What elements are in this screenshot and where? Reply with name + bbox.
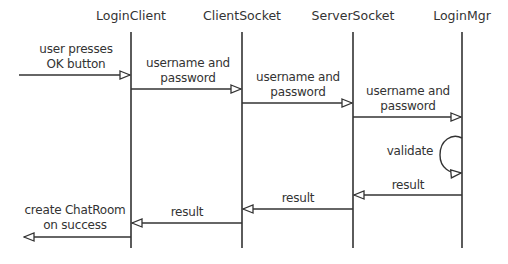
label-line: create ChatRoom (24, 203, 126, 218)
message-label-validate: validate (384, 144, 436, 159)
object-loginmgr: LoginMgr (433, 8, 491, 23)
label-line: username and (250, 70, 346, 85)
message-label-credentials-2: username and password (250, 70, 346, 100)
label-line: password (360, 99, 456, 114)
object-clientsocket: ClientSocket (203, 8, 281, 23)
message-label-credentials-3: username and password (360, 84, 456, 114)
label-line: password (140, 71, 236, 86)
message-label-result-2: result (275, 191, 321, 206)
label-line: user presses (28, 42, 124, 57)
message-label-user-press: user presses OK button (28, 42, 124, 72)
message-label-result-3: result (164, 205, 210, 220)
message-label-create-chatroom: create ChatRoom on success (24, 203, 126, 233)
label-line: username and (360, 84, 456, 99)
message-label-credentials-1: username and password (140, 56, 236, 86)
label-line: username and (140, 56, 236, 71)
label-line: on success (24, 218, 126, 233)
label-line: OK button (28, 57, 124, 72)
label-line: password (250, 85, 346, 100)
object-loginclient: LoginClient (96, 8, 166, 23)
message-label-result-1: result (385, 178, 431, 193)
object-serversocket: ServerSocket (312, 8, 395, 23)
self-call-validate-arrow (440, 136, 462, 173)
